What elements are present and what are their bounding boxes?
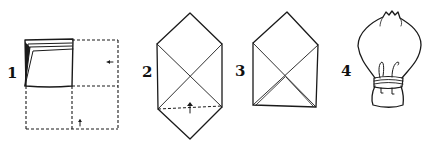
step-number-2: 2: [142, 63, 152, 81]
step-number-3: 3: [235, 62, 245, 80]
envelope-shape: [253, 12, 318, 107]
step-number-4: 4: [341, 62, 351, 80]
step-number-1: 1: [7, 64, 17, 82]
step-2: 2: [142, 13, 222, 139]
folding-diagram: 1 2: [0, 0, 433, 148]
bulb-shape: [358, 11, 421, 78]
arrow-left-icon: [107, 60, 113, 64]
step-4: 4: [341, 11, 421, 107]
arrow-up-icon: [78, 119, 82, 126]
step-1: 1: [7, 39, 118, 129]
arrow-up-icon: [187, 102, 193, 113]
step-3: 3: [235, 12, 318, 107]
